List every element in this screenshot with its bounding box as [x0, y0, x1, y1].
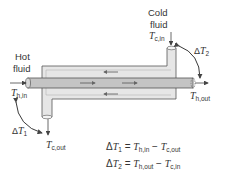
delta-symbol: Δ: [106, 141, 113, 152]
equation-delta-t1: ΔT1 = Th,in − Tc,out: [106, 141, 180, 153]
t-c-in-subscript: c,in: [155, 35, 165, 42]
delta-symbol: Δ: [106, 158, 113, 169]
t-h-out-subscript: h,out: [196, 95, 210, 102]
eq2-rhs2-subscript: c,in: [170, 163, 180, 170]
cold-fluid-label-line2: fluid: [150, 20, 167, 30]
cold-in-port: [167, 46, 176, 50]
minus-sign: −: [153, 158, 164, 169]
eq2-rhs1-subscript: h,out: [139, 163, 153, 170]
delta-t1-label: ΔT1: [12, 126, 27, 139]
eq1-rhs2-subscript: c,out: [166, 146, 180, 153]
t-c-out-subscript: c,out: [52, 144, 66, 151]
t-h-in-subscript: h,in: [17, 92, 27, 99]
cold-out-port: [42, 115, 52, 119]
minus-sign: −: [149, 141, 160, 152]
t-c-in-label: Tc,in: [149, 31, 165, 44]
hot-fluid-label-line2: fluid: [13, 64, 30, 74]
delta-t2-label: ΔT2: [194, 46, 209, 59]
equals-sign: =: [122, 141, 133, 152]
inner-tube-inlet-end: [26, 78, 31, 88]
equals-sign: =: [122, 158, 133, 169]
eq1-rhs1-subscript: h,in: [139, 146, 149, 153]
t-c-out-label: Tc,out: [46, 140, 66, 153]
equation-delta-t2: ΔT2 = Th,out − Tc,in: [106, 158, 180, 170]
inner-tube: [28, 78, 193, 88]
hot-fluid-label-line1: Hot: [15, 52, 30, 62]
delta-t1-subscript: 1: [24, 130, 28, 137]
t-h-in-label: Th,in: [11, 88, 27, 101]
delta-t2-subscript: 2: [206, 50, 210, 57]
t-h-out-label: Th,out: [190, 91, 210, 104]
cold-fluid-label-line1: Cold: [148, 8, 168, 18]
